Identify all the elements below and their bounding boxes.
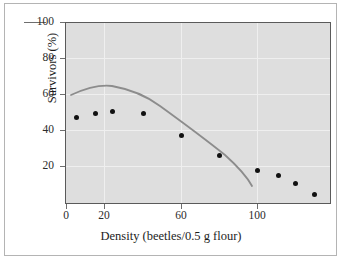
x-tick-label-60: 60 bbox=[166, 210, 196, 222]
gridline-y-60 bbox=[66, 94, 330, 95]
data-point bbox=[93, 111, 98, 116]
gridline-x-20 bbox=[104, 23, 105, 203]
axis-line-left bbox=[65, 22, 66, 204]
data-point bbox=[179, 133, 184, 138]
axis-line-right bbox=[330, 22, 331, 204]
y-axis-label-wrapper: Survivors (%) bbox=[44, 8, 60, 128]
x-tick-label-100: 100 bbox=[242, 210, 272, 222]
gridline-x-60 bbox=[181, 23, 182, 203]
data-point bbox=[74, 115, 79, 120]
axis-line-top bbox=[65, 22, 331, 23]
gridline-y-80 bbox=[66, 58, 330, 59]
y-tick-label-20: 20 bbox=[24, 160, 54, 172]
figure-container: 100 80 60 40 20 0 20 60 100 bbox=[0, 0, 342, 261]
axis-line-bottom bbox=[65, 203, 331, 204]
x-axis-label: Density (beetles/0.5 g flour) bbox=[0, 229, 342, 244]
gridline-y-20 bbox=[66, 166, 330, 167]
data-point bbox=[110, 109, 115, 114]
y-axis-label: Survivors (%) bbox=[45, 33, 60, 103]
data-point bbox=[255, 168, 260, 173]
plot-area bbox=[66, 23, 330, 203]
x-tick-label-0: 0 bbox=[51, 210, 81, 222]
gridline-y-40 bbox=[66, 130, 330, 131]
gridline-x-100 bbox=[257, 23, 258, 203]
data-point bbox=[141, 111, 146, 116]
x-tick-label-20: 20 bbox=[89, 210, 119, 222]
data-point bbox=[312, 192, 317, 197]
data-point bbox=[276, 173, 281, 178]
data-point bbox=[293, 181, 298, 186]
data-point bbox=[217, 153, 222, 158]
